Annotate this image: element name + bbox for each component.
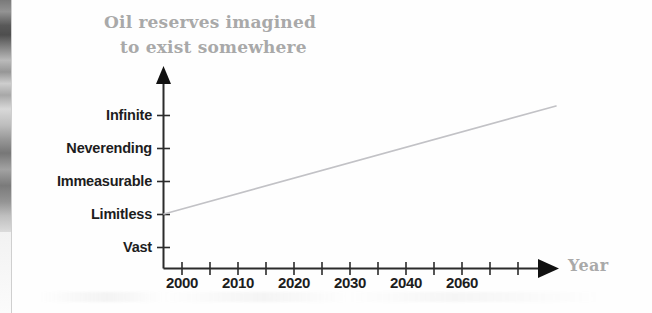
y-axis-arrowhead-icon xyxy=(156,66,171,84)
data-series-line xyxy=(164,106,556,214)
x-axis-arrowhead-icon xyxy=(538,259,559,278)
x-axis-title: Year xyxy=(568,256,609,275)
x-tick-label-2060: 2060 xyxy=(430,274,494,291)
chart-figure: Oil reserves imagined to exist somewhere xyxy=(0,0,652,313)
y-tick-label-vast: Vast xyxy=(0,239,152,255)
y-tick-label-neverending: Neverending xyxy=(0,140,152,156)
x-tick-label-2010: 2010 xyxy=(206,274,270,291)
y-tick-label-infinite: Infinite xyxy=(0,107,152,123)
y-tick-label-limitless: Limitless xyxy=(0,206,152,222)
x-tick-label-2030: 2030 xyxy=(318,274,382,291)
x-tick-label-2040: 2040 xyxy=(374,274,438,291)
plot-area xyxy=(0,0,652,313)
y-tick-label-immeasurable: Immeasurable xyxy=(0,173,152,189)
x-tick-label-2000: 2000 xyxy=(150,274,214,291)
x-tick-label-2020: 2020 xyxy=(262,274,326,291)
